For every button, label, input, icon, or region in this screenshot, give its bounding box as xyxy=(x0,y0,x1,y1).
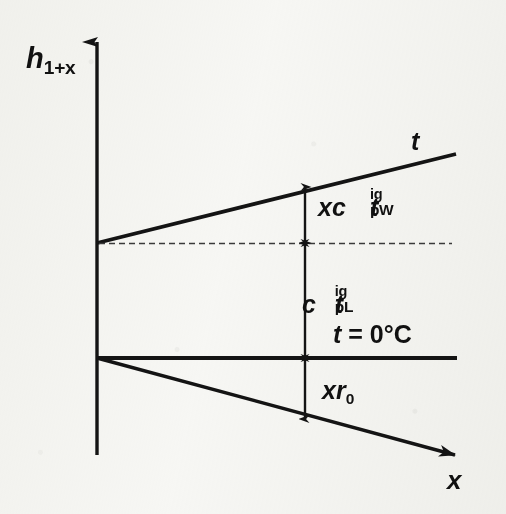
y-axis-label: h1+x xyxy=(26,44,76,73)
annotation-xr0-base: xr xyxy=(322,376,346,404)
annotation-reference-temperature: t = 0°C xyxy=(333,322,412,347)
annotation-xcpw-subscript: pW xyxy=(370,202,394,218)
annotation-cpl: cpLigpLt xyxy=(302,292,343,317)
isotherm-t-label: t xyxy=(411,129,419,154)
isotherm-t-line xyxy=(97,154,456,243)
annotation-cpl-base: c xyxy=(302,290,316,318)
y-axis-label-base: h xyxy=(26,42,44,74)
annotation-xcpw: xcpWigpWt xyxy=(318,195,378,220)
annotation-xr0: xr0 xyxy=(322,378,354,403)
annotation-xcpw-superscript: ig xyxy=(370,187,382,202)
annotation-xr0-subscript: 0 xyxy=(346,390,354,407)
x-axis-descending-line xyxy=(97,358,455,455)
x-axis-label: x xyxy=(447,467,461,493)
annotation-cpl-superscript: ig xyxy=(335,284,347,299)
annotation-cpl-subscript: pL xyxy=(335,299,353,315)
annotation-cpl-script-stack: pLigpL xyxy=(316,292,335,317)
annotation-reference-temperature-value: 0°C xyxy=(370,320,412,348)
annotation-reference-temperature-equals: = xyxy=(341,320,370,348)
annotation-xcpw-script-stack: pWigpW xyxy=(346,195,370,220)
annotation-xcpw-base: xc xyxy=(318,193,346,221)
y-axis-label-subscript: 1+x xyxy=(44,57,76,78)
diagram-canvas: h1+x x t xcpWigpWt cpLigpLt t = 0°C xr0 xyxy=(0,0,506,514)
